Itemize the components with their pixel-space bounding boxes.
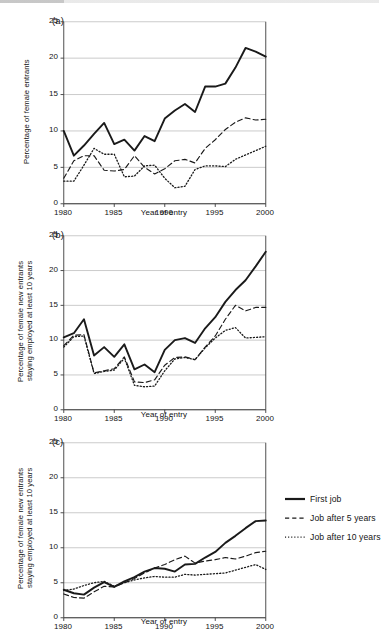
legend-label-first-job: First job: [310, 494, 341, 504]
series-line: [64, 551, 266, 598]
y-tick-label: 20: [38, 52, 58, 61]
series-line: [64, 328, 266, 387]
legend-item-first-job: First job: [285, 489, 379, 508]
panel-c-y-axis-label: Percentage of female new entrants stayin…: [16, 453, 34, 603]
series-line: [64, 252, 266, 372]
panel-b: (b) Percentage of female new entrants st…: [0, 215, 379, 423]
y-tick-label: 5: [38, 369, 58, 378]
y-tick-label: 0: [38, 198, 58, 207]
y-tick-label: 5: [38, 577, 58, 586]
y-tick-label: 25: [38, 16, 58, 25]
y-tick-label: 15: [38, 300, 58, 309]
y-tick-label: 20: [38, 472, 58, 481]
panel-b-plot-area: [63, 235, 267, 411]
panel-c-x-axis-label: Year of entry: [63, 617, 265, 626]
y-tick-label: 10: [38, 125, 58, 134]
series-line: [64, 520, 266, 594]
y-tick-label: 15: [38, 89, 58, 98]
y-tick-label: 10: [38, 542, 58, 551]
legend-label-job-after-10-years: Job after 10 years: [310, 532, 381, 542]
legend-swatch-dotted-icon: [285, 532, 305, 542]
y-tick-label: 20: [38, 265, 58, 274]
panel-c-plot-area: [63, 442, 267, 619]
chart-legend: First job Job after 5 years Job after 10…: [285, 489, 379, 546]
legend-item-job-after-10-years: Job after 10 years: [285, 527, 379, 546]
y-tick-label: 0: [38, 612, 58, 621]
panel-b-y-axis-label: Percentage of female new entrants stayin…: [16, 246, 34, 396]
y-tick-label: 25: [38, 437, 58, 446]
y-tick-label: 25: [38, 230, 58, 239]
legend-item-job-after-5-years: Job after 5 years: [285, 508, 379, 527]
panel-a-y-axis-label: Percentage of female entrants: [22, 38, 31, 186]
legend-swatch-dashed-icon: [285, 513, 305, 523]
y-tick-label: 10: [38, 334, 58, 343]
panel-b-x-axis-label: Year of entry: [63, 410, 265, 419]
y-tick-label: 5: [38, 162, 58, 171]
series-line: [64, 48, 266, 156]
legend-label-job-after-5-years: Job after 5 years: [310, 513, 376, 523]
panel-a: (a) Percentage of female entrants 051015…: [0, 0, 379, 215]
y-tick-label: 15: [38, 507, 58, 516]
y-tick-label: 0: [38, 404, 58, 413]
legend-swatch-solid-icon: [285, 494, 305, 504]
panel-a-plot-area: [63, 21, 267, 205]
